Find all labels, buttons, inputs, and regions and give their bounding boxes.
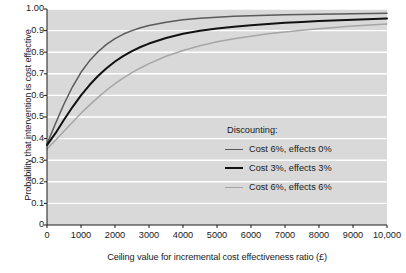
legend-item-label: Cost 6%, effects 6% <box>249 183 332 192</box>
x-tick-label: 10,000 <box>357 231 406 240</box>
legend-item: Cost 6%, effects 0% <box>225 144 385 154</box>
x-axis-title: Ceiling value for incremental cost effec… <box>47 252 387 262</box>
x-axis-tick-labels: 010002000300040005000600070008000900010,… <box>0 231 401 245</box>
legend-line-swatch <box>225 149 243 150</box>
legend-item-label: Cost 6%, effects 0% <box>249 145 332 154</box>
legend-line-swatch <box>225 167 243 169</box>
legend-entries: Cost 6%, effects 0%Cost 3%, effects 3%Co… <box>225 144 385 192</box>
legend-line-swatch <box>225 187 243 188</box>
legend-item-label: Cost 3%, effects 3% <box>249 164 332 173</box>
legend-item: Cost 3%, effects 3% <box>225 163 385 173</box>
legend-item: Cost 6%, effects 6% <box>225 182 385 192</box>
legend-title: Discounting: <box>227 126 385 135</box>
legend: Discounting: Cost 6%, effects 0%Cost 3%,… <box>225 126 385 201</box>
